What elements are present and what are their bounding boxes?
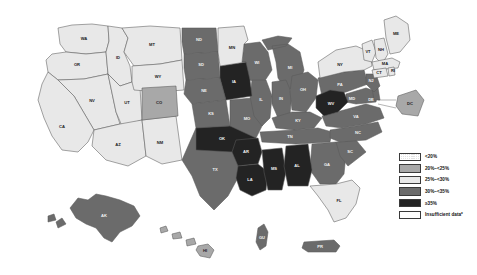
label-NE: NE bbox=[201, 88, 207, 93]
label-FL: FL bbox=[336, 198, 342, 203]
label-DC: DC bbox=[407, 101, 413, 106]
legend-label-25-30: 25%–<30% bbox=[425, 177, 449, 182]
label-ND: ND bbox=[196, 37, 202, 42]
label-AR: AR bbox=[243, 149, 249, 154]
legend-swatch-insufficient bbox=[399, 211, 421, 219]
legend-label-insufficient: Insufficient data* bbox=[425, 212, 463, 217]
label-IA: IA bbox=[232, 79, 236, 84]
legend-label-lt20: <20% bbox=[425, 154, 437, 159]
legend-item-3[interactable]: 30%–<35% bbox=[399, 186, 477, 198]
label-CA: CA bbox=[59, 124, 65, 129]
label-NH: NH bbox=[378, 47, 384, 52]
label-WI: WI bbox=[254, 60, 259, 65]
map-svg: WA OR ID MT WY NV UT CA AZ NM CO ND SD N… bbox=[0, 0, 477, 275]
label-UT: UT bbox=[124, 100, 130, 105]
label-MT: MT bbox=[149, 42, 155, 47]
label-PA: PA bbox=[337, 82, 342, 87]
label-LA: LA bbox=[247, 177, 253, 182]
label-NV: NV bbox=[89, 98, 95, 103]
legend-label-gte35: ≥35% bbox=[425, 201, 437, 206]
legend-item-4[interactable]: ≥35% bbox=[399, 197, 477, 209]
label-OR: OR bbox=[74, 62, 80, 67]
label-TX: TX bbox=[212, 167, 218, 172]
label-TN: TN bbox=[287, 134, 293, 139]
label-MO: MO bbox=[244, 116, 251, 121]
label-VT: VT bbox=[365, 49, 371, 54]
label-SC: SC bbox=[347, 149, 353, 154]
label-MS: MS bbox=[271, 166, 277, 171]
label-GU: GU bbox=[259, 235, 265, 240]
label-MD: MD bbox=[349, 96, 355, 101]
label-GA: GA bbox=[324, 162, 330, 167]
label-CT: CT bbox=[376, 70, 382, 75]
label-IL: IL bbox=[259, 97, 263, 102]
label-SD: SD bbox=[198, 62, 204, 67]
legend-swatch-gte35 bbox=[399, 199, 421, 207]
label-PR: PR bbox=[317, 244, 323, 249]
legend-swatch-25-30 bbox=[399, 176, 421, 184]
label-RI: RI bbox=[391, 68, 395, 73]
legend-swatch-20-25 bbox=[399, 164, 421, 172]
legend-item-2[interactable]: 25%–<30% bbox=[399, 174, 477, 186]
legend-swatch-30-35 bbox=[399, 187, 421, 195]
legend-swatch-lt20 bbox=[399, 153, 421, 161]
label-KS: KS bbox=[208, 111, 214, 116]
label-AZ: AZ bbox=[115, 142, 121, 147]
us-choropleth-map-figure: WA OR ID MT WY NV UT CA AZ NM CO ND SD N… bbox=[0, 0, 477, 275]
label-MI: MI bbox=[288, 65, 293, 70]
label-IN: IN bbox=[279, 96, 283, 101]
label-MN: MN bbox=[229, 45, 235, 50]
label-NC: NC bbox=[355, 130, 361, 135]
label-CO: CO bbox=[156, 100, 163, 105]
label-AL: AL bbox=[294, 163, 300, 168]
map-legend: <20% 20%–<25% 25%–<30% 30%–<35% ≥35% Ins… bbox=[399, 151, 477, 221]
label-OH: OH bbox=[300, 87, 306, 92]
label-WV: WV bbox=[328, 101, 335, 106]
legend-item-0[interactable]: <20% bbox=[399, 151, 477, 163]
label-NM: NM bbox=[157, 140, 164, 145]
legend-label-30-35: 30%–<35% bbox=[425, 189, 449, 194]
label-KY: KY bbox=[295, 118, 301, 123]
label-ID: ID bbox=[116, 55, 120, 60]
label-HI: HI bbox=[203, 248, 207, 253]
label-OK: OK bbox=[219, 136, 225, 141]
legend-item-1[interactable]: 20%–<25% bbox=[399, 163, 477, 175]
label-WA: WA bbox=[81, 36, 88, 41]
label-DE: DE bbox=[368, 97, 374, 102]
label-VA: VA bbox=[353, 114, 358, 119]
legend-item-5[interactable]: Insufficient data* bbox=[399, 209, 477, 221]
label-ME: ME bbox=[393, 31, 399, 36]
label-NY: NY bbox=[337, 62, 343, 67]
label-NJ: NJ bbox=[368, 78, 373, 83]
legend-label-20-25: 20%–<25% bbox=[425, 166, 449, 171]
label-AK: AK bbox=[101, 213, 107, 218]
label-MA: MA bbox=[382, 61, 388, 66]
label-WY: WY bbox=[155, 74, 162, 79]
